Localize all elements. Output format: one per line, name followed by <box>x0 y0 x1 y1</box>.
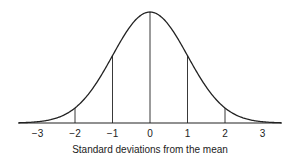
x-tick-label: 0 <box>147 128 153 139</box>
x-tick-label: 1 <box>185 128 191 139</box>
x-tick-label: −1 <box>107 128 119 139</box>
x-tick-label: 2 <box>222 128 228 139</box>
normal-distribution-chart: −3−2−10123 Standard deviations from the … <box>0 0 296 163</box>
reference-lines <box>75 12 225 123</box>
x-axis-title: Standard deviations from the mean <box>72 144 228 155</box>
x-tick-labels: −3−2−10123 <box>32 128 266 139</box>
x-tick-label: −3 <box>32 128 44 139</box>
x-tick-label: −2 <box>69 128 81 139</box>
x-tick-label: 3 <box>260 128 266 139</box>
